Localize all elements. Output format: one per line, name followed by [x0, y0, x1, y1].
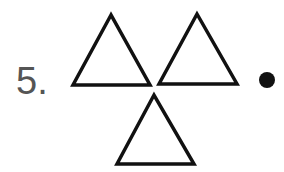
triangle-shape [73, 15, 150, 85]
triangle-figure [0, 0, 284, 172]
triangle-shape [159, 14, 237, 84]
dot-icon [259, 72, 275, 88]
triangle-shape [117, 95, 194, 164]
